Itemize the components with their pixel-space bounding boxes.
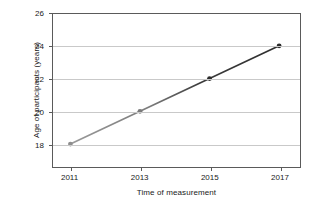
plot-area <box>52 13 301 168</box>
gridline-y <box>53 46 300 47</box>
x-tick-label: 2013 <box>131 173 149 182</box>
data-line <box>70 46 279 144</box>
x-tickmark <box>281 167 282 171</box>
y-tick-label: 22 <box>0 74 44 83</box>
x-tick-label: 2017 <box>271 173 289 182</box>
y-tickmark <box>49 79 53 80</box>
x-tickmark <box>71 167 72 171</box>
gridline-y <box>53 79 300 80</box>
y-tick-label: 26 <box>0 9 44 18</box>
gridline-y <box>53 13 300 14</box>
y-tickmark <box>49 112 53 113</box>
y-tick-label: 20 <box>0 107 44 116</box>
line-chart: Age of participants (years) 1820222426 2… <box>0 0 321 208</box>
y-tick-label: 24 <box>0 41 44 50</box>
series-line-age-of-participants <box>53 13 300 167</box>
y-tickmark <box>49 145 53 146</box>
gridline-y <box>53 145 300 146</box>
y-axis-tick-labels: 1820222426 <box>0 0 44 208</box>
x-tickmark <box>211 167 212 171</box>
x-axis-title: Time of measurement <box>52 188 301 197</box>
gridline-y <box>53 112 300 113</box>
y-tick-label: 18 <box>0 140 44 149</box>
x-tick-label: 2015 <box>201 173 219 182</box>
x-tickmark <box>141 167 142 171</box>
y-tickmark <box>49 46 53 47</box>
x-tick-label: 2011 <box>61 173 78 182</box>
y-tickmark <box>49 13 53 14</box>
